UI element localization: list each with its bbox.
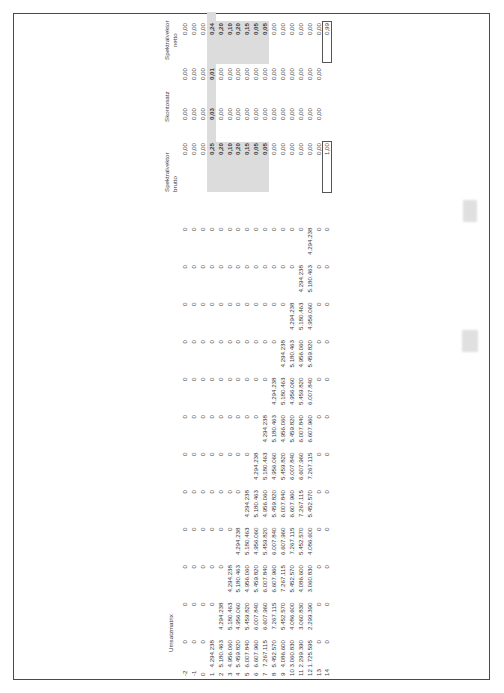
umsatz-cell: 0 xyxy=(199,265,207,305)
netto-cell: 0,00 xyxy=(288,23,296,63)
umsatz-cell: 4.294.238 xyxy=(261,415,269,455)
umsatz-cell: 0 xyxy=(226,340,234,380)
umsatz-cell: 0 xyxy=(279,228,287,268)
skontosatz-cell: 0,00 xyxy=(199,108,207,148)
brutto-cell: 0,20 xyxy=(217,143,225,183)
umsatz-cell: 4.956.060 xyxy=(306,303,314,343)
umsatz-cell: 0 xyxy=(234,415,242,455)
skonto-betrag-cell: 0,00 xyxy=(306,68,314,108)
umsatz-cell: 5.459.820 xyxy=(288,415,296,455)
netto-cell: 0,05 xyxy=(252,23,260,63)
skonto-betrag-cell: 0,00 xyxy=(199,68,207,108)
umsatz-cell: 0 xyxy=(315,303,323,343)
umsatz-cell: 0 xyxy=(181,415,189,455)
umsatz-cell: 0 xyxy=(252,340,260,380)
umsatz-cell: 0 xyxy=(234,378,242,418)
umsatz-cell: 0 xyxy=(199,565,207,605)
umsatz-cell: 0 xyxy=(323,340,331,380)
umsatz-cell: 0 xyxy=(323,490,331,530)
umsatz-cell: 5.459.820 xyxy=(297,378,305,418)
umsatz-cell: 0 xyxy=(199,528,207,568)
skonto-betrag-cell: 0,00 xyxy=(226,68,234,108)
umsatz-cell: 0 xyxy=(181,603,189,643)
netto-cell: 0,10 xyxy=(226,23,234,63)
umsatz-cell: 0 xyxy=(261,340,269,380)
umsatz-cell: 2.299.390 xyxy=(306,603,314,643)
skonto-betrag-cell: 0,00 xyxy=(243,68,251,108)
umsatz-cell: 0 xyxy=(323,228,331,268)
umsatz-cell: 0 xyxy=(181,490,189,530)
umsatz-cell: 0 xyxy=(288,228,296,268)
umsatz-cell: 5.180.463 xyxy=(270,415,278,455)
skonto-betrag-cell: 0,00 xyxy=(261,68,269,108)
umsatz-cell: 6.607.960 xyxy=(306,415,314,455)
umsatz-cell: 0 xyxy=(190,565,198,605)
umsatz-cell: 0 xyxy=(190,453,198,493)
umsatz-cell: 0 xyxy=(315,490,323,530)
umsatz-cell: 0 xyxy=(199,303,207,343)
umsatz-cell: 2.299.390 xyxy=(297,640,305,680)
umsatz-cell: 0 xyxy=(270,303,278,343)
umsatz-cell: 5.452.570 xyxy=(297,528,305,568)
netto-cell: 0,00 xyxy=(306,23,314,63)
umsatz-cell: 4.294.238 xyxy=(288,303,296,343)
umsatz-cell: 0 xyxy=(208,528,216,568)
netto-cell: 0,20 xyxy=(217,23,225,63)
umsatz-cell: 0 xyxy=(199,603,207,643)
brutto-cell: 0,00 xyxy=(306,143,314,183)
umsatz-cell: 0 xyxy=(217,265,225,305)
umsatz-cell: 4.086.600 xyxy=(279,640,287,680)
umsatz-cell: 0 xyxy=(208,565,216,605)
skontosatz-title: Skontosatz xyxy=(163,91,171,122)
skontosatz-cell: 0,00 xyxy=(226,108,234,148)
skontosatz-cell: 0,03 xyxy=(208,108,216,148)
umsatz-cell: 0 xyxy=(181,640,189,680)
umsatz-cell: 7.267.115 xyxy=(306,453,314,493)
umsatz-cell: 4.956.060 xyxy=(226,640,234,680)
umsatz-cell: 6.607.960 xyxy=(261,603,269,643)
umsatz-cell: 5.459.820 xyxy=(306,340,314,380)
umsatz-cell: 0 xyxy=(226,265,234,305)
umsatz-cell: 6.007.840 xyxy=(297,415,305,455)
umsatz-cell: 6.007.840 xyxy=(252,603,260,643)
skontosatz-cell: 0,00 xyxy=(279,108,287,148)
netto-cell: 0,00 xyxy=(190,23,198,63)
umsatz-cell: 5.452.570 xyxy=(288,565,296,605)
umsatz-cell: 0 xyxy=(323,603,331,643)
umsatz-cell: 7.267.115 xyxy=(270,603,278,643)
skontosatz-cell: 0,00 xyxy=(190,108,198,148)
umsatz-cell: 5.180.463 xyxy=(243,528,251,568)
umsatz-cell: 4.294.238 xyxy=(252,453,260,493)
umsatz-cell: 4.294.238 xyxy=(243,490,251,530)
skontosatz-cell: 0,00 xyxy=(252,108,260,148)
rotated-spreadsheet-page: Umsatzmatrix Spektralvektor brutto Skont… xyxy=(13,13,492,682)
umsatz-cell: 0 xyxy=(252,415,260,455)
umsatz-cell: 0 xyxy=(199,228,207,268)
total-box: 0,99 xyxy=(322,21,332,63)
umsatz-cell: 4.956.060 xyxy=(243,565,251,605)
umsatz-cell: 4.086.600 xyxy=(297,565,305,605)
umsatz-cell: 0 xyxy=(226,415,234,455)
umsatz-cell: 0 xyxy=(234,303,242,343)
umsatz-cell: 5.180.463 xyxy=(226,603,234,643)
netto-cell: 0,00 xyxy=(199,23,207,63)
umsatz-cell: 6.007.840 xyxy=(243,640,251,680)
skontosatz-cell: 0,00 xyxy=(181,108,189,148)
umsatz-cell: 0 xyxy=(208,340,216,380)
umsatz-cell: 4.086.600 xyxy=(306,528,314,568)
umsatz-cell: 0 xyxy=(190,640,198,680)
umsatz-cell: 0 xyxy=(261,228,269,268)
umsatz-cell: 7.267.115 xyxy=(297,490,305,530)
umsatz-cell: 3.060.830 xyxy=(288,640,296,680)
skontosatz-cell: 0,00 xyxy=(217,108,225,148)
brutto-cell: 0,05 xyxy=(261,143,269,183)
umsatz-cell: 6.607.960 xyxy=(297,453,305,493)
brutto-cell: 0,15 xyxy=(243,143,251,183)
umsatz-cell: 0 xyxy=(234,453,242,493)
skontosatz-cell: 0,00 xyxy=(306,108,314,148)
umsatz-cell: 0 xyxy=(226,228,234,268)
brutto-cell: 0,00 xyxy=(315,143,323,183)
umsatz-cell: 6.007.840 xyxy=(261,565,269,605)
umsatz-cell: 3.060.830 xyxy=(297,603,305,643)
netto-cell: 0,00 xyxy=(181,23,189,63)
